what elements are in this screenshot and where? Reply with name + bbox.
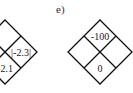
right-diamond-cell-top: -100 (91, 31, 109, 42)
part-label: e) (56, 3, 65, 16)
right-diamond: -100 0 (68, 20, 132, 84)
right-diamond-cell-bottom: 0 (98, 63, 103, 74)
diagram-canvas: e) |-2.3| -2.1 -100 0 (0, 0, 133, 93)
left-diamond-cell-right: |-2.3| (11, 47, 31, 58)
left-diamond-cell-bottom: -2.1 (0, 63, 13, 74)
left-diamond: |-2.3| -2.1 (0, 20, 37, 84)
